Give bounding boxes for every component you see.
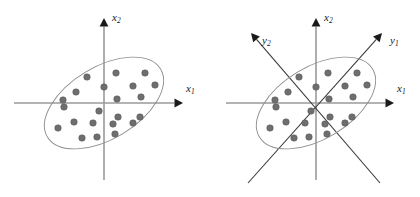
data-point: [350, 94, 357, 101]
data-point: [130, 120, 137, 127]
data-point: [138, 94, 145, 101]
data-point: [94, 134, 101, 141]
x1-axis-label: x1: [396, 82, 406, 96]
data-point: [291, 135, 298, 142]
data-point: [55, 125, 62, 132]
data-point: [364, 82, 371, 89]
data-point: [283, 119, 290, 126]
right-scatter-points: [267, 70, 371, 142]
data-point: [142, 70, 149, 77]
data-point: [84, 74, 91, 81]
data-point: [96, 108, 103, 115]
data-point: [342, 120, 349, 127]
data-point: [325, 70, 332, 77]
data-point: [285, 89, 292, 96]
x1-axis-label: x1: [185, 82, 195, 96]
data-point: [152, 82, 159, 89]
data-point: [349, 114, 356, 121]
y2-axis-label: y2: [261, 34, 271, 48]
data-point: [115, 114, 122, 121]
data-point: [306, 134, 313, 141]
data-point: [71, 119, 78, 126]
data-point: [60, 97, 67, 104]
scatter-figure-container: x1x2 x1x2y1y2: [0, 0, 420, 197]
data-point: [267, 125, 274, 132]
data-point: [313, 84, 320, 91]
data-point: [61, 104, 68, 111]
data-point: [272, 97, 279, 104]
x1-axis-arrow-icon: [386, 99, 395, 108]
data-point: [110, 121, 117, 128]
panel-rotated-axes: x1x2y1y2: [210, 0, 420, 197]
x2-axis-label: x2: [323, 11, 333, 25]
data-point: [90, 120, 97, 127]
left-panel-svg: x1x2: [0, 0, 210, 197]
data-point: [273, 104, 280, 111]
data-point: [327, 114, 334, 121]
data-point: [326, 96, 333, 103]
data-point: [324, 131, 331, 138]
data-point: [112, 131, 119, 138]
x2-axis-label: x2: [111, 11, 121, 25]
data-point: [137, 114, 144, 121]
data-point: [101, 84, 108, 91]
data-point: [113, 70, 120, 77]
data-point: [322, 121, 329, 128]
data-point: [296, 74, 303, 81]
x1-axis-arrow-icon: [175, 99, 184, 108]
x2-axis-arrow-icon: [312, 18, 321, 27]
data-point: [342, 83, 349, 90]
y2-axis-arrow-icon: [251, 33, 260, 42]
y1-axis-label: y1: [389, 34, 399, 48]
data-point: [302, 120, 309, 127]
data-point: [308, 108, 315, 115]
left-scatter-points: [55, 70, 159, 142]
panel-original-axes: x1x2: [0, 0, 210, 197]
right-panel-svg: x1x2y1y2: [210, 0, 420, 197]
data-point: [73, 89, 80, 96]
x2-axis-arrow-icon: [100, 18, 109, 27]
data-point: [354, 70, 361, 77]
data-point: [79, 135, 86, 142]
data-point: [130, 83, 137, 90]
data-point: [114, 96, 121, 103]
